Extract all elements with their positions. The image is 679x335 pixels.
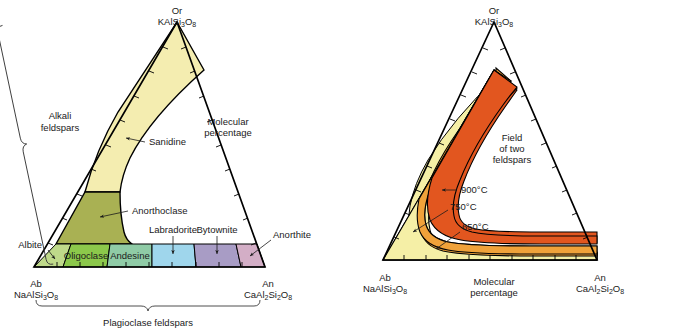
right-apex-or-formula: KAlSi3O8 [475,16,514,28]
label-anorthite: Anorthite [273,229,311,240]
label-labradorite: Labradorite [149,224,197,235]
left-apex-an-symbol: An [262,278,274,289]
left-ternary-diagram: Or KAlSi3O8 Ab NaAlSi3O8 An CaAl2Si2O8 M… [0,5,311,328]
label-oligoclase: Oligoclase [64,250,108,261]
left-apex-an-formula: CaAl2Si2O8 [244,289,292,301]
label-isotherm-900: 900°C [461,184,488,195]
field-labradorite[interactable] [152,244,196,267]
two-feldspar-field-line2: of two [499,143,524,154]
label-albite: Albite [18,239,42,250]
right-apex-an-formula: CaAl2Si2O8 [576,283,624,295]
right-axis-note-line1: Molecular [473,276,514,287]
label-bytownite: Bytownite [196,224,237,235]
label-andesine: Andesine [110,250,150,261]
field-anorthoclase[interactable] [56,192,132,244]
right-apex-ab-formula: NaAlSi3O8 [363,283,407,295]
right-apex-ab-symbol: Ab [379,272,391,283]
feldspar-ternary-figure: Or KAlSi3O8 Ab NaAlSi3O8 An CaAl2Si2O8 M… [0,0,679,335]
alkali-feldspars-label-line1: Alkali [49,110,72,121]
plagioclase-feldspars-label: Plagioclase feldspars [103,317,193,328]
right-ternary-diagram: Or KAlSi3O8 Ab NaAlSi3O8 An CaAl2Si2O8 M… [363,5,624,298]
right-apex-or-symbol: Or [489,5,500,16]
plagioclase-feldspars-brace [36,300,260,311]
label-sanidine: Sanidine [149,136,186,147]
right-apex-an-symbol: An [594,272,606,283]
right-axis-note-line2: percentage [470,287,518,298]
left-apex-ab-symbol: Ab [30,278,42,289]
left-axis-note-line1: Molecular [207,116,248,127]
left-apex-or-formula: KAlSi3O8 [158,16,197,28]
alkali-feldspars-brace [0,25,53,265]
two-feldspar-field-line3: feldspars [493,154,532,165]
alkali-feldspars-label-line2: feldspars [41,122,80,133]
label-anorthoclase: Anorthoclase [132,205,187,216]
field-bytownite[interactable] [194,244,241,267]
two-feldspar-field-line1: Field [502,132,523,143]
label-isotherm-650: 650°C [462,221,489,232]
left-axis-note-line2: percentage [204,127,252,138]
label-isotherm-750: 750°C [450,201,477,212]
left-apex-or-symbol: Or [172,5,183,16]
figure-root: Or KAlSi3O8 Ab NaAlSi3O8 An CaAl2Si2O8 M… [0,0,679,335]
left-apex-ab-formula: NaAlSi3O8 [14,289,58,301]
